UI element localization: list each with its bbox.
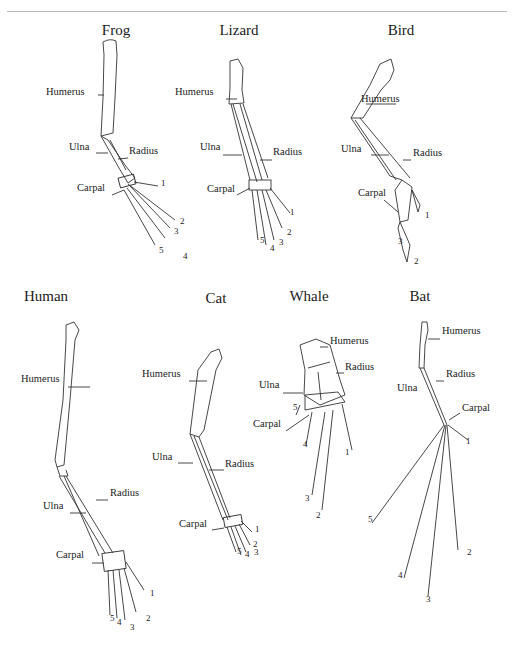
human-label-humerus: Humerus xyxy=(21,373,60,385)
frog-label-ulna: Ulna xyxy=(69,141,89,153)
frog-label-humerus: Humerus xyxy=(46,86,85,98)
frog-digit-3: 3 xyxy=(174,226,179,236)
bird-label-humerus: Humerus xyxy=(361,93,400,105)
human-label-ulna: Ulna xyxy=(43,500,63,512)
whale-digit-1: 1 xyxy=(345,447,350,457)
human-digit-1: 1 xyxy=(150,588,155,598)
lizard-label-radius: Radius xyxy=(273,146,302,158)
lizard-digit-3: 3 xyxy=(279,237,284,247)
lizard-digit-4: 4 xyxy=(270,243,275,253)
bat-digit-2: 2 xyxy=(467,547,472,557)
cat-title: Cat xyxy=(206,290,227,307)
cat-digit-5: 5 xyxy=(237,546,242,556)
cat-label-ulna: Ulna xyxy=(152,451,172,463)
human-limb-drawing xyxy=(55,322,144,620)
cat-digit-1: 1 xyxy=(255,524,260,534)
frog-digit-1: 1 xyxy=(161,178,166,188)
human-digit-5: 5 xyxy=(110,613,115,623)
cat-label-radius: Radius xyxy=(225,458,254,470)
whale-digit-2: 2 xyxy=(316,510,321,520)
lizard-digit-1: 1 xyxy=(290,207,295,217)
lizard-digit-5: 5 xyxy=(260,235,265,245)
whale-title: Whale xyxy=(289,288,328,305)
cat-digit-4: 4 xyxy=(245,549,250,559)
frog-label-carpal: Carpal xyxy=(77,182,105,194)
human-digit-4: 4 xyxy=(117,617,122,627)
bird-digit-3: 3 xyxy=(398,236,403,246)
bat-digit-5: 5 xyxy=(368,514,373,524)
bat-digit-3: 3 xyxy=(426,594,431,604)
frog-digit-5: 5 xyxy=(159,245,164,255)
human-digit-2: 2 xyxy=(146,613,151,623)
whale-digit-3: 3 xyxy=(305,493,310,503)
frog-label-radius: Radius xyxy=(129,145,158,157)
whale-label-ulna: Ulna xyxy=(259,379,279,391)
bat-label-ulna: Ulna xyxy=(397,382,417,394)
bat-title: Bat xyxy=(410,288,431,305)
whale-label-carpal: Carpal xyxy=(253,418,281,430)
lizard-digit-2: 2 xyxy=(287,227,292,237)
bat-label-carpal: Carpal xyxy=(462,402,490,414)
bird-label-carpal: Carpal xyxy=(358,187,386,199)
bird-digit-1: 1 xyxy=(425,210,430,220)
human-title: Human xyxy=(24,288,68,305)
lizard-title: Lizard xyxy=(219,22,258,39)
bird-label-radius: Radius xyxy=(413,147,442,159)
bird-digit-2: 2 xyxy=(414,256,419,266)
bat-label-humerus: Humerus xyxy=(442,325,481,337)
whale-label-humerus: Humerus xyxy=(330,335,369,347)
frog-digit-2: 2 xyxy=(180,216,185,226)
bat-limb-drawing xyxy=(372,322,468,596)
human-label-carpal: Carpal xyxy=(56,549,84,561)
lizard-label-carpal: Carpal xyxy=(207,183,235,195)
bat-digit-1: 1 xyxy=(466,436,471,446)
whale-digit-4: 4 xyxy=(303,439,308,449)
whale-limb-drawing xyxy=(283,339,352,510)
bird-limb-drawing xyxy=(351,59,420,262)
whale-label-radius: Radius xyxy=(345,361,374,373)
whale-digit-5: 5 xyxy=(293,402,298,412)
cat-label-humerus: Humerus xyxy=(142,368,181,380)
cat-digit-3: 3 xyxy=(254,547,259,557)
cat-label-carpal: Carpal xyxy=(179,518,207,530)
human-label-radius: Radius xyxy=(110,487,139,499)
bat-label-radius: Radius xyxy=(446,368,475,380)
human-digit-3: 3 xyxy=(130,622,135,632)
limb-drawings xyxy=(0,0,518,667)
frog-title: Frog xyxy=(102,22,130,39)
frog-digit-4: 4 xyxy=(183,251,188,261)
frog-limb-drawing xyxy=(96,40,175,245)
bat-digit-4: 4 xyxy=(398,570,403,580)
bird-title: Bird xyxy=(388,22,415,39)
bird-label-ulna: Ulna xyxy=(341,143,361,155)
lizard-label-humerus: Humerus xyxy=(175,86,214,98)
lizard-label-ulna: Ulna xyxy=(200,141,220,153)
